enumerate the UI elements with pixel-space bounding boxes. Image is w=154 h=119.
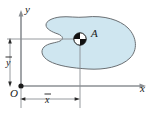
x-bar-label-group: x (44, 94, 51, 105)
y-axis-arrowhead (19, 10, 24, 17)
area-shape (42, 17, 135, 70)
y-bar-label-group: y (5, 57, 12, 68)
x-bar-arrow-right (75, 97, 80, 101)
origin-dot (18, 83, 23, 88)
origin-label: O (10, 87, 18, 99)
y-axis-label: y (24, 3, 30, 15)
figure-canvas: y x O A y x (0, 0, 154, 119)
centroid-figure: y x O A y x (0, 0, 154, 119)
centroid-marker (74, 33, 86, 45)
area-label: A (90, 27, 98, 39)
x-bar-label: x (44, 94, 50, 105)
y-bar-label: y (5, 57, 11, 68)
x-axis-label: x (139, 82, 145, 94)
